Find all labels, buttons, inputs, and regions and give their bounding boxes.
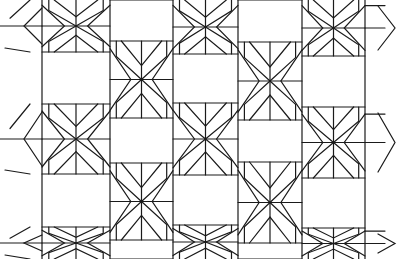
chevron-line bbox=[10, 104, 30, 129]
chevron-line bbox=[10, 227, 30, 238]
geometric-pattern bbox=[0, 0, 406, 259]
chevron-line bbox=[5, 48, 30, 52]
chevron-line bbox=[5, 170, 30, 174]
chevron-line bbox=[5, 255, 30, 259]
chevron-line bbox=[10, 0, 30, 18]
pattern-lines bbox=[0, 0, 406, 259]
